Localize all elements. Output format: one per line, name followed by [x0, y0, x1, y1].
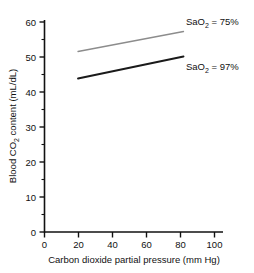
- x-tick-label-100: 100: [207, 239, 223, 250]
- x-axis-major-ticks: [45, 232, 215, 238]
- series-97-label-post: = 97%: [209, 61, 239, 72]
- series-75-label-pre: SaO: [186, 16, 205, 27]
- co2-dissociation-chart: 0 10 20 30 40 50 60 0 20 40 60 80 100 Ca…: [0, 0, 254, 273]
- series-97-label-pre: SaO: [186, 61, 205, 72]
- series-line-sao2-75: [78, 32, 184, 52]
- series-annotation-sao2-97: SaO2 = 97%: [186, 61, 239, 74]
- x-tick-label-60: 60: [141, 239, 152, 250]
- y-axis-title-pre: Blood CO: [7, 142, 18, 183]
- chart-figure: 0 10 20 30 40 50 60 0 20 40 60 80 100 Ca…: [0, 0, 254, 273]
- series-line-sao2-97: [78, 57, 184, 79]
- y-tick-label-30: 30: [25, 122, 36, 133]
- y-tick-label-10: 10: [25, 192, 36, 203]
- x-tick-label-40: 40: [107, 239, 118, 250]
- y-tick-label-50: 50: [25, 52, 36, 63]
- x-tick-label-80: 80: [175, 239, 186, 250]
- x-tick-label-0: 0: [42, 239, 47, 250]
- y-tick-label-20: 20: [25, 157, 36, 168]
- y-tick-label-60: 60: [25, 17, 36, 28]
- svg-text:Blood CO2 content (mL/dL): Blood CO2 content (mL/dL): [7, 69, 20, 183]
- series-75-label-post: = 75%: [209, 16, 239, 27]
- y-tick-label-40: 40: [25, 87, 36, 98]
- y-tick-label-0: 0: [31, 227, 36, 238]
- series-annotation-sao2-75: SaO2 = 75%: [186, 16, 239, 29]
- x-tick-label-20: 20: [73, 239, 84, 250]
- x-axis-title: Carbon dioxide partial pressure (mm Hg): [48, 254, 220, 265]
- y-axis-title-post: content (mL/dL): [7, 69, 18, 138]
- y-axis-title: Blood CO2 content (mL/dL): [7, 69, 20, 183]
